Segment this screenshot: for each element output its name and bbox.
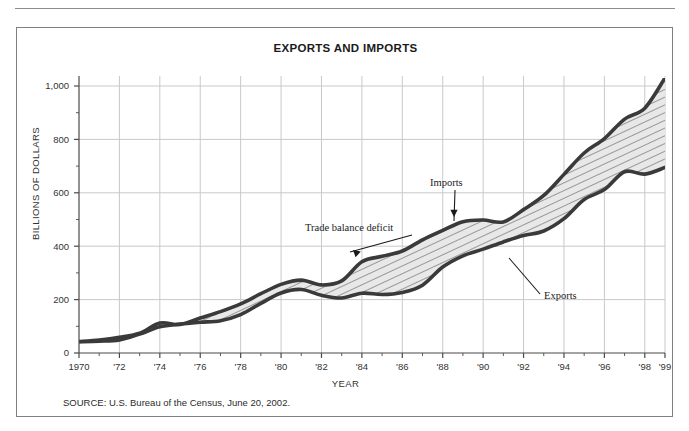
figure-frame: EXPORTS AND IMPORTS BILLIONS OF DOLLARS …: [16, 27, 673, 417]
annotation-exports: Exports: [544, 290, 577, 301]
annotation-imports: Imports: [430, 177, 463, 188]
x-tick-label: '92: [517, 361, 529, 372]
x-tick-label: 1970: [68, 361, 89, 372]
y-tick-label: 600: [53, 187, 69, 198]
x-tick-label: '84: [356, 361, 368, 372]
y-tick-group: 02004006008001,000: [45, 80, 79, 358]
x-tick-label: '74: [154, 361, 166, 372]
imports-line: [79, 78, 665, 342]
gridlines-group: [79, 76, 665, 353]
x-tick-label: '76: [194, 361, 206, 372]
annotation-trade-balance-deficit: Trade balance deficit: [305, 222, 393, 233]
chart-page: EXPORTS AND IMPORTS BILLIONS OF DOLLARS …: [0, 0, 689, 431]
source-note: SOURCE: U.S. Bureau of the Census, June …: [63, 397, 290, 408]
x-axis-title: YEAR: [17, 378, 674, 389]
y-tick-label: 400: [53, 241, 69, 252]
x-tick-label: '80: [275, 361, 287, 372]
x-tick-label: '94: [558, 361, 570, 372]
x-tick-label: '90: [477, 361, 489, 372]
x-tick-label: '99: [659, 361, 671, 372]
y-tick-label: 0: [64, 347, 69, 358]
x-tick-label: '96: [598, 361, 610, 372]
y-tick-label: 1,000: [45, 80, 69, 91]
x-tick-label: '88: [437, 361, 449, 372]
x-tick-group: 1970'72'74'76'78'80'82'84'86'88'90'92'94…: [68, 353, 671, 372]
x-tick-label: '98: [639, 361, 651, 372]
x-tick-label: '86: [396, 361, 408, 372]
y-tick-label: 800: [53, 134, 69, 145]
chart-plot-area: 02004006008001,000 1970'72'74'76'78'80'8…: [17, 28, 674, 418]
trade-deficit-band: [79, 78, 665, 342]
x-tick-label: '72: [113, 361, 125, 372]
top-divider-rule: [15, 8, 675, 9]
x-tick-label: '82: [315, 361, 327, 372]
x-tick-label: '78: [234, 361, 246, 372]
y-tick-label: 200: [53, 294, 69, 305]
